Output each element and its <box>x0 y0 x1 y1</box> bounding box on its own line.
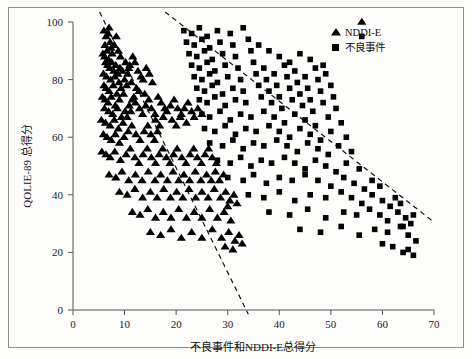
point-marker-square <box>369 192 375 198</box>
point-marker-square <box>243 126 249 132</box>
y-tick-label: 100 <box>47 16 64 28</box>
point-marker-square <box>385 218 391 224</box>
point-marker-square <box>222 103 228 109</box>
point-marker-triangle <box>187 228 196 235</box>
point-marker-triangle <box>208 225 217 232</box>
point-marker-square <box>338 120 344 126</box>
point-marker-square <box>362 186 368 192</box>
point-marker-square <box>264 180 270 186</box>
point-marker-triangle <box>143 121 152 128</box>
point-marker-square <box>238 111 244 117</box>
point-marker-square <box>287 85 293 91</box>
point-marker-triangle <box>167 116 176 123</box>
point-marker-square <box>387 204 393 210</box>
point-marker-square <box>197 65 203 71</box>
point-marker-square <box>325 152 331 158</box>
point-marker-square <box>215 28 221 34</box>
point-marker-square <box>282 62 288 68</box>
point-marker-square <box>282 155 288 161</box>
point-marker-square <box>202 126 208 132</box>
point-marker-square <box>184 39 190 45</box>
point-marker-square <box>323 215 329 221</box>
point-marker-square <box>333 106 339 112</box>
point-marker-square <box>372 227 378 233</box>
point-marker-square <box>230 42 236 48</box>
point-marker-square <box>313 123 319 129</box>
point-marker-square <box>227 160 233 166</box>
point-marker-triangle <box>211 168 220 175</box>
series-adverse-events <box>181 25 419 258</box>
point-marker-triangle <box>169 96 178 103</box>
point-marker-square <box>258 157 264 163</box>
point-marker-square <box>204 60 210 66</box>
point-marker-square <box>212 94 218 100</box>
point-marker-square <box>302 166 308 172</box>
point-marker-square <box>246 192 252 198</box>
point-marker-square <box>243 100 249 106</box>
point-marker-square <box>197 25 203 31</box>
point-marker-triangle <box>172 188 181 195</box>
point-marker-square <box>248 163 254 169</box>
point-marker-square <box>385 229 391 235</box>
point-marker-square <box>248 114 254 120</box>
point-marker-square <box>403 215 409 221</box>
point-marker-triangle <box>123 191 132 198</box>
point-marker-square <box>315 77 321 83</box>
point-marker-square <box>302 74 308 80</box>
point-marker-square <box>292 160 298 166</box>
point-marker-square <box>315 178 321 184</box>
x-tick-label: 60 <box>377 318 389 330</box>
figure-container: 010203040506070020406080100 NDDI-E不良事件 不… <box>0 0 472 359</box>
y-tick-label: 60 <box>52 131 64 143</box>
point-marker-square <box>269 100 275 106</box>
point-marker-square <box>323 71 329 77</box>
point-marker-square <box>191 42 197 48</box>
point-marker-square <box>307 132 313 138</box>
point-marker-triangle <box>112 32 121 39</box>
point-marker-triangle <box>146 228 155 235</box>
point-marker-square <box>292 68 298 74</box>
point-marker-square <box>217 108 223 114</box>
point-marker-square <box>248 48 254 54</box>
point-marker-triangle <box>128 52 137 59</box>
point-marker-square <box>251 60 257 66</box>
triangle-marker <box>331 28 341 36</box>
y-tick-label: 40 <box>52 189 64 201</box>
point-marker-triangle <box>229 191 238 198</box>
point-marker-square <box>349 195 355 201</box>
point-marker-square <box>191 74 197 80</box>
point-marker-square <box>222 62 228 68</box>
point-marker-square <box>295 149 301 155</box>
point-marker-square <box>398 201 404 207</box>
data-points <box>97 18 419 258</box>
point-marker-triangle <box>166 214 175 221</box>
point-marker-triangle <box>190 208 199 215</box>
point-marker-square <box>276 94 282 100</box>
point-marker-square <box>215 157 221 163</box>
point-marker-square <box>356 166 362 172</box>
point-marker-square <box>307 57 313 63</box>
trend-lines <box>100 12 434 314</box>
point-marker-triangle <box>156 231 165 238</box>
point-marker-square <box>225 175 231 181</box>
x-tick-label: 30 <box>222 318 234 330</box>
point-marker-square <box>261 65 267 71</box>
point-marker-square <box>380 198 386 204</box>
point-marker-square <box>271 71 277 77</box>
point-marker-square <box>413 238 419 244</box>
point-marker-square <box>359 201 365 207</box>
point-marker-triangle <box>158 144 167 151</box>
x-tick-label: 0 <box>70 318 76 330</box>
point-marker-square <box>405 247 411 253</box>
point-marker-square <box>302 172 308 178</box>
point-marker-triangle <box>205 205 214 212</box>
point-marker-square <box>323 163 329 169</box>
point-marker-triangle <box>128 208 137 215</box>
point-marker-square <box>233 54 239 60</box>
point-marker-square <box>266 88 272 94</box>
point-marker-square <box>274 83 280 89</box>
x-tick-label: 50 <box>325 318 337 330</box>
point-marker-square <box>380 241 386 247</box>
point-marker-triangle <box>146 188 155 195</box>
point-marker-triangle <box>197 188 206 195</box>
